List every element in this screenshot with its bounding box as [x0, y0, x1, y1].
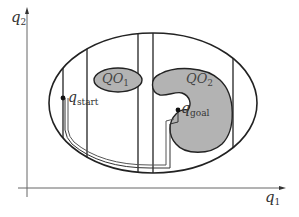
y-axis-label-sub: 2: [21, 17, 27, 27]
x-axis-label-sub: 1: [275, 197, 281, 207]
x-axis-label-main: q: [265, 188, 275, 206]
diagram-canvas: [0, 0, 299, 217]
start-label: qstart: [68, 90, 99, 107]
y-axis-label: q2: [11, 10, 26, 27]
start-label-sub: start: [77, 97, 99, 107]
obstacle-qo1-label: QO1: [102, 72, 129, 88]
goal-label-sub: goal: [190, 108, 209, 118]
goal-label-main: q: [181, 100, 190, 116]
qo2-label-sub: 2: [207, 78, 213, 88]
path-start-to-goal: [65, 98, 178, 168]
start-label-main: q: [68, 89, 77, 105]
path-outer: [65, 98, 178, 168]
obstacle-qo2-label: QO2: [186, 72, 213, 88]
qo1-label-main: QO: [102, 71, 123, 86]
goal-point: [176, 108, 181, 113]
qo1-label-sub: 1: [123, 78, 129, 88]
x-axis-label: q1: [265, 190, 280, 207]
start-point: [61, 96, 66, 101]
y-axis-label-main: q: [11, 8, 21, 26]
qo2-label-main: QO: [186, 71, 207, 86]
goal-label: qgoal: [181, 101, 209, 118]
